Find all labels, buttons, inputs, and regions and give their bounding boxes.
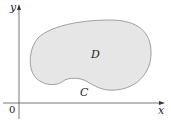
y-axis-label: y [9, 1, 17, 14]
x-axis-label: x [158, 104, 165, 117]
curve-label: C [80, 86, 89, 99]
region-diagram: y x 0 D C [0, 0, 171, 122]
region-label: D [90, 48, 100, 61]
y-axis-arrow-icon [17, 4, 21, 10]
origin-label: 0 [9, 104, 15, 115]
